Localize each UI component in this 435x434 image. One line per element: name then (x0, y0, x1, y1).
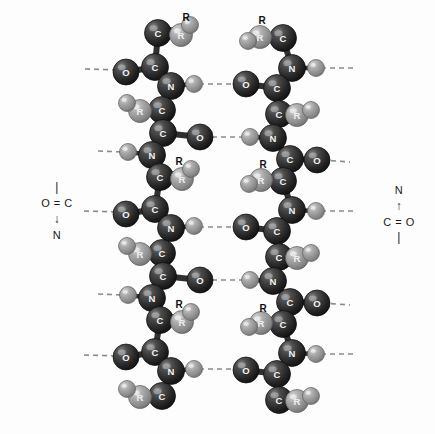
atom-label-n: N (270, 276, 277, 287)
atom-label-o: O (196, 132, 203, 143)
atom-h (308, 60, 325, 77)
legend-right-nitrogen: N (368, 181, 430, 199)
atom-label-r: R (137, 106, 144, 117)
atom-o: O (113, 59, 139, 85)
atom-label-r: R (137, 392, 144, 403)
atom-o: O (233, 357, 259, 383)
atom-o: O (233, 214, 259, 240)
atom-label-c: C (157, 315, 164, 326)
atom-h (242, 272, 259, 289)
r-group-callout-label: R (258, 15, 266, 26)
atom-label-n: N (149, 293, 156, 304)
atom-h (183, 304, 200, 321)
atom-label-o: O (313, 155, 320, 166)
atom-label-o: O (242, 79, 249, 90)
atom-label-o: O (122, 209, 129, 220)
atom-c: C (149, 383, 176, 410)
legend-right-carbonyl: C = O (368, 213, 430, 231)
legend-right-bottom-bond: | (368, 231, 430, 244)
atom-c: C (270, 311, 297, 338)
atom-h (186, 361, 203, 378)
figure-canvas: CRCONCRCONCRCONCRCONCRCONCRCRNCOCRNCOCRN… (0, 0, 435, 434)
atom-layer: CRCONCRCONCRCONCRCONCRCONCRCRNCOCRNCOCRN… (113, 12, 330, 414)
atom-n: N (158, 73, 185, 100)
atom-label-r: R (257, 32, 264, 43)
atom-h (241, 176, 258, 193)
atom-label-c: C (152, 347, 159, 358)
atom-c: C (145, 20, 172, 47)
legend-right: N ↑ C = O | (368, 181, 430, 244)
atom-label-o: O (196, 275, 203, 286)
atom-label-c: C (274, 83, 281, 94)
atom-label-c: C (280, 33, 287, 44)
atom-label-o: O (122, 352, 129, 363)
atom-o: O (187, 124, 213, 150)
atom-c: C (147, 307, 174, 334)
atom-label-c: C (152, 204, 159, 215)
r-group-callout-label: R (259, 303, 267, 314)
atom-h (308, 203, 325, 220)
atom-label-c: C (276, 109, 283, 120)
atom-c: C (264, 218, 291, 245)
atom-label-c: C (287, 154, 294, 165)
atom-label-r: R (294, 396, 301, 407)
atom-h (120, 144, 137, 161)
r-group-callout-label: R (175, 156, 183, 167)
atom-label-o: O (242, 365, 249, 376)
atom-label-c: C (276, 395, 283, 406)
atom-label-r: R (137, 249, 144, 260)
atom-o: O (304, 147, 330, 173)
atom-label-r: R (258, 318, 265, 329)
atom-c: C (270, 168, 297, 195)
atom-label-o: O (313, 298, 320, 309)
atom-label-o: O (122, 67, 129, 78)
atom-o: O (233, 71, 259, 97)
atom-c: C (147, 164, 174, 191)
atom-label-n: N (168, 366, 175, 377)
atom-label-n: N (149, 150, 156, 161)
atom-c: C (264, 361, 291, 388)
r-group-callout-label: R (182, 12, 190, 23)
atom-h (242, 129, 259, 146)
atom-label-r: R (179, 317, 186, 328)
atom-h (119, 381, 136, 398)
atom-h (119, 238, 136, 255)
atom-o: O (187, 267, 213, 293)
atom-h (303, 388, 320, 405)
atom-label-c: C (276, 252, 283, 263)
atom-h (186, 76, 203, 93)
legend-left-top-bond: | (18, 181, 96, 194)
atom-label-n: N (289, 63, 296, 74)
atom-label-c: C (155, 28, 162, 39)
atom-label-n: N (168, 81, 175, 92)
atom-label-c: C (159, 105, 166, 116)
atom-h (120, 287, 137, 304)
atom-label-n: N (270, 133, 277, 144)
atom-label-o: O (242, 222, 249, 233)
atom-label-c: C (159, 248, 166, 259)
legend-left-carbonyl: O = C (18, 194, 96, 212)
atom-label-c: C (160, 128, 167, 139)
atom-label-c: C (280, 319, 287, 330)
atom-label-n: N (168, 223, 175, 234)
atom-h (303, 245, 320, 262)
atom-label-r: R (294, 110, 301, 121)
atom-label-c: C (287, 297, 294, 308)
atom-label-c: C (274, 369, 281, 380)
atom-label-r: R (179, 174, 186, 185)
atom-h (119, 95, 136, 112)
r-group-callout-label: R (175, 299, 183, 310)
atom-n: N (158, 358, 185, 385)
legend-left-arrow-icon: ↓ (18, 212, 96, 226)
r-group-callout-label: R (259, 159, 267, 170)
atom-label-c: C (280, 176, 287, 187)
atom-label-c: C (274, 226, 281, 237)
atom-o: O (113, 344, 139, 370)
atom-h (308, 346, 325, 363)
atom-h (183, 161, 200, 178)
atom-label-c: C (157, 172, 164, 183)
atom-h (240, 33, 257, 50)
legend-left-nitrogen: N (18, 226, 96, 244)
atom-label-n: N (289, 348, 296, 359)
atom-label-r: R (178, 30, 185, 41)
